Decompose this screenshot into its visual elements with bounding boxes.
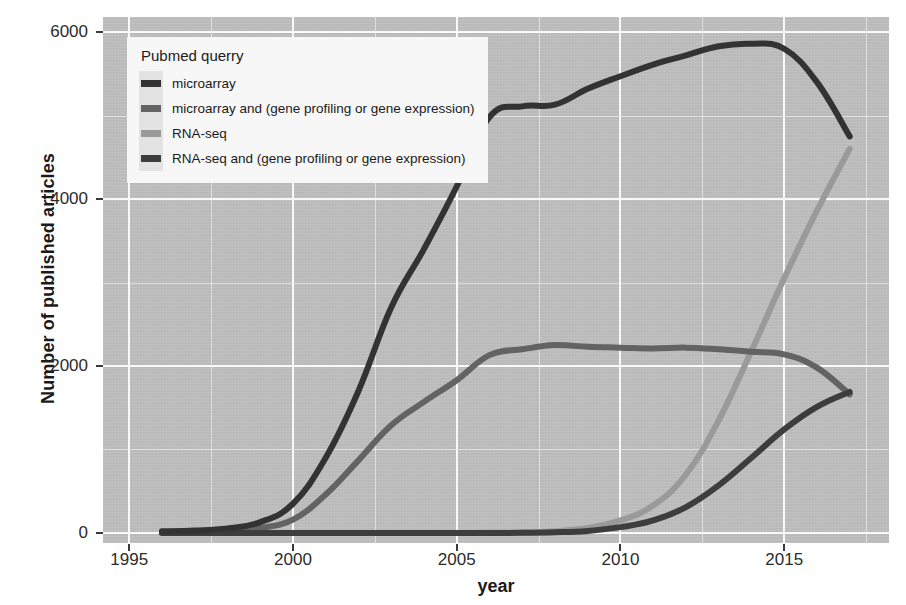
series-line xyxy=(162,345,850,532)
y-tick-mark xyxy=(96,532,103,534)
x-axis-title: year xyxy=(103,576,889,597)
x-tick-mark xyxy=(456,544,458,551)
legend: Pubmed querry microarraymicroarray and (… xyxy=(127,37,488,183)
legend-item: microarray and (gene profiling or gene e… xyxy=(139,96,474,121)
y-tick-label: 0 xyxy=(10,523,88,543)
x-tick-mark xyxy=(292,544,294,551)
y-tick-mark xyxy=(96,31,103,33)
x-tick-label: 2010 xyxy=(575,550,665,570)
x-tick-label: 2000 xyxy=(248,550,338,570)
legend-item: RNA-seq and (gene profiling or gene expr… xyxy=(139,146,474,171)
legend-item: microarray xyxy=(139,71,474,96)
y-tick-mark xyxy=(96,365,103,367)
legend-item-label: RNA-seq xyxy=(172,126,227,141)
series-line xyxy=(162,149,850,533)
x-tick-label: 2015 xyxy=(739,550,829,570)
y-axis-ticks: 0200040006000 xyxy=(8,0,88,605)
x-tick-mark xyxy=(783,544,785,551)
legend-color-swatch xyxy=(141,80,161,87)
legend-key xyxy=(139,71,163,96)
x-tick-label: 2005 xyxy=(412,550,502,570)
y-tick-label: 4000 xyxy=(10,189,88,209)
y-tick-label: 2000 xyxy=(10,356,88,376)
series-line xyxy=(162,392,850,533)
plot-panel: Pubmed querry microarraymicroarray and (… xyxy=(103,17,889,543)
y-tick-mark xyxy=(96,198,103,200)
legend-key xyxy=(139,96,163,121)
y-tick-label: 6000 xyxy=(10,22,88,42)
legend-color-swatch xyxy=(141,105,161,112)
legend-item-label: microarray xyxy=(172,76,236,91)
chart-figure: Number of published articles 02000400060… xyxy=(0,0,906,605)
legend-key xyxy=(139,121,163,146)
legend-item-label: microarray and (gene profiling or gene e… xyxy=(172,101,474,116)
x-tick-label: 1995 xyxy=(84,550,174,570)
legend-color-swatch xyxy=(141,155,161,162)
legend-key xyxy=(139,146,163,171)
legend-title: Pubmed querry xyxy=(141,47,474,64)
legend-items: microarraymicroarray and (gene profiling… xyxy=(139,71,474,171)
legend-item-label: RNA-seq and (gene profiling or gene expr… xyxy=(172,151,465,166)
x-tick-mark xyxy=(619,544,621,551)
legend-item: RNA-seq xyxy=(139,121,474,146)
legend-color-swatch xyxy=(141,130,161,137)
x-tick-mark xyxy=(128,544,130,551)
